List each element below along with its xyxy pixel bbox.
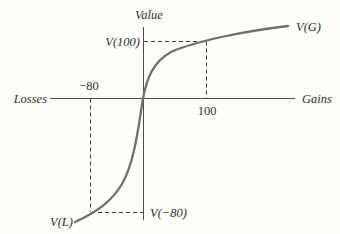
- tick-label-100: 100: [198, 104, 217, 118]
- value-function-curve: [75, 26, 288, 222]
- tick-label-minus80: −80: [79, 79, 99, 93]
- prospect-theory-value-function-chart: Value Losses Gains −80 100 V(100) V(G) V…: [0, 0, 340, 234]
- annotation-v100: V(100): [105, 35, 140, 49]
- x-axis-losses-label: Losses: [13, 92, 47, 106]
- x-axis-gains-label: Gains: [302, 92, 332, 106]
- annotation-vl: V(L): [50, 215, 73, 229]
- y-axis-title: Value: [135, 8, 163, 22]
- annotation-vg: V(G): [296, 20, 321, 34]
- chart-canvas: Value Losses Gains −80 100 V(100) V(G) V…: [0, 0, 340, 234]
- annotation-v-minus80: V(−80): [150, 206, 187, 220]
